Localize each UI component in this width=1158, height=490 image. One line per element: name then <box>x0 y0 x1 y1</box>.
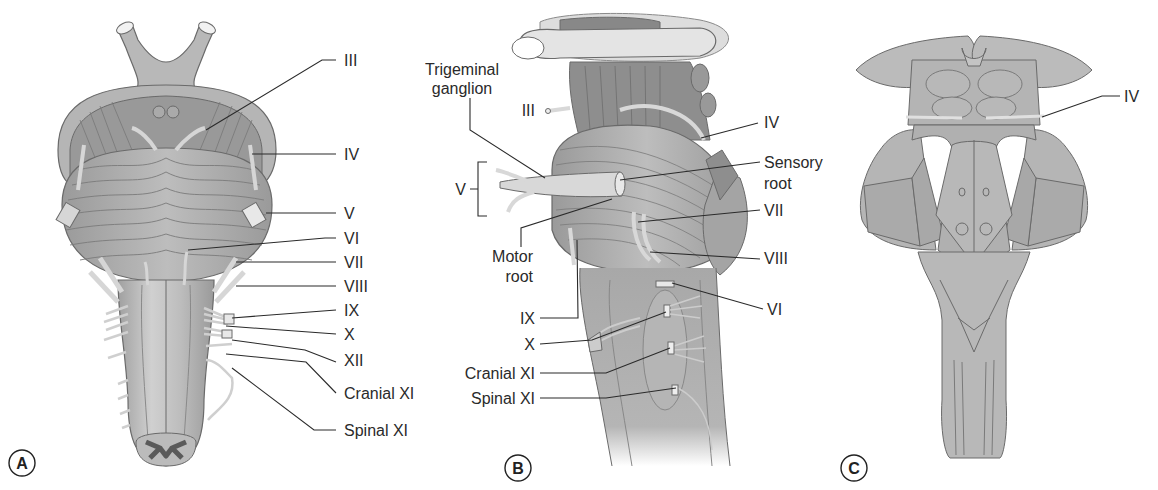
label-viii-b: VIII <box>764 250 788 267</box>
label-ix-b: IX <box>520 310 535 327</box>
panel-a-letter: A <box>16 455 28 472</box>
label-vi: VI <box>344 230 359 247</box>
panel-b-lateral-view: Trigeminal ganglion III V Motor root IX … <box>425 13 823 481</box>
label-cranial-xi: Cranial XI <box>344 385 414 402</box>
label-iii-b: III <box>522 102 535 119</box>
label-iii: III <box>344 52 357 69</box>
label-v: V <box>344 205 355 222</box>
label-vii: VII <box>344 254 364 271</box>
label-viii: VIII <box>344 278 368 295</box>
brainstem-cranial-nerves-figure: III IV V VI VII VIII IX X XII Cranial XI… <box>0 0 1158 490</box>
label-v-b: V <box>455 181 466 198</box>
label-xii: XII <box>344 352 364 369</box>
label-root-sensory: root <box>764 175 792 192</box>
label-root-motor: root <box>505 268 533 285</box>
panel-c-leader-line <box>1042 96 1120 117</box>
label-spinal-xi-b: Spinal XI <box>471 390 535 407</box>
label-trigeminal: Trigeminal <box>425 61 499 78</box>
label-ix: IX <box>344 302 359 319</box>
panel-c-letter: C <box>848 460 860 477</box>
label-x-b: X <box>524 336 535 353</box>
label-motor: Motor <box>492 248 534 265</box>
label-ganglion: ganglion <box>432 80 493 97</box>
label-iv-b: IV <box>764 114 779 131</box>
label-sensory: Sensory <box>764 154 823 171</box>
label-vi-b: VI <box>767 301 782 318</box>
label-cranial-xi-b: Cranial XI <box>465 365 535 382</box>
label-iv: IV <box>344 146 359 163</box>
label-iv-c: IV <box>1124 88 1139 105</box>
panel-a-anterior-view: III IV V VI VII VIII IX X XII Cranial XI… <box>9 20 414 476</box>
label-x: X <box>344 326 355 343</box>
label-spinal-xi: Spinal XI <box>344 422 408 439</box>
panel-c-posterior-view: IV C <box>841 36 1139 481</box>
panel-b-letter: B <box>512 460 524 477</box>
optic-chiasm <box>118 24 214 90</box>
label-vii-b: VII <box>764 202 784 219</box>
